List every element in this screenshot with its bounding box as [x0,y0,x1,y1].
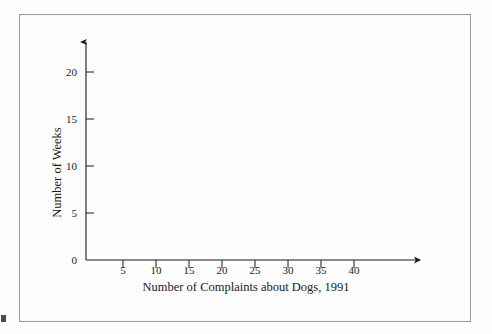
y-tick-label-0: 0 [55,255,77,266]
x-tick-label-5: 5 [120,265,126,276]
y-tick-label-20: 20 [55,67,77,78]
scanned-page: 0 5 10 15 20 5 10 15 20 25 30 35 40 Numb… [0,0,492,334]
scan-artifact-speck [1,315,6,322]
figure-frame: 0 5 10 15 20 5 10 15 20 25 30 35 40 Numb… [19,14,471,322]
x-tick-label-15: 15 [184,265,195,276]
x-tick-label-10: 10 [151,265,162,276]
y-axis-ticks [86,72,94,213]
plot-area: 0 5 10 15 20 5 10 15 20 25 30 35 40 Numb… [20,15,472,323]
x-tick-label-30: 30 [283,265,294,276]
x-tick-label-25: 25 [250,265,261,276]
x-axis-title: Number of Complaints about Dogs, 1991 [20,280,472,295]
y-axis-title: Number of Weeks [50,113,65,233]
x-tick-label-35: 35 [316,265,327,276]
axes-svg [20,15,472,323]
x-tick-label-40: 40 [349,265,360,276]
x-tick-label-20: 20 [217,265,228,276]
